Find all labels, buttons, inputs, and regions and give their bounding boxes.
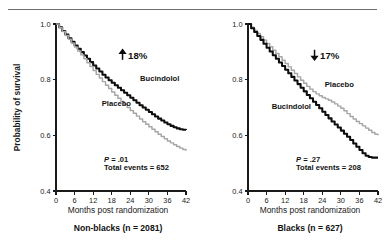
x-axis-title: Months post randomization bbox=[260, 205, 361, 215]
y-tick-label: 1.0 bbox=[232, 20, 242, 29]
x-tick-label: 42 bbox=[374, 196, 382, 205]
curve-placebo bbox=[248, 24, 378, 135]
x-tick-label: 18 bbox=[108, 196, 116, 205]
series-label-bucindolol: Bucindolol bbox=[140, 74, 179, 83]
y-tick-label: 0.6 bbox=[232, 131, 242, 140]
x-tick-label: 36 bbox=[163, 196, 171, 205]
effect-annotation: 17% bbox=[312, 50, 340, 62]
chart-panel-non-blacks: 0.40.60.81.006121824303642Months post ra… bbox=[0, 0, 192, 247]
x-tick-label: 24 bbox=[318, 196, 326, 205]
chart-panel-blacks: 0.40.60.81.006121824303642Months post ra… bbox=[192, 0, 384, 247]
x-tick-label: 42 bbox=[182, 196, 190, 205]
x-tick-label: 0 bbox=[246, 196, 250, 205]
panel-title: Blacks (n = 627) bbox=[277, 223, 342, 233]
figure-root: 0.40.60.81.006121824303642Months post ra… bbox=[0, 0, 385, 247]
effect-annotation: 18% bbox=[120, 50, 148, 62]
x-tick-label: 18 bbox=[300, 196, 308, 205]
x-tick-label: 0 bbox=[54, 196, 58, 205]
x-tick-label: 30 bbox=[337, 196, 345, 205]
y-axis-title: Probability of survival bbox=[12, 64, 22, 152]
series-label-placebo: Placebo bbox=[325, 80, 354, 89]
series-label-bucindolol: Bucindolol bbox=[272, 102, 311, 111]
total-events-label: Total events = 652 bbox=[104, 163, 169, 172]
y-tick-label: 0.6 bbox=[40, 131, 50, 140]
series-label-placebo: Placebo bbox=[102, 99, 131, 108]
y-tick-label: 1.0 bbox=[40, 20, 50, 29]
x-tick-label: 12 bbox=[281, 196, 289, 205]
y-tick-label: 0.8 bbox=[40, 75, 50, 84]
x-axis-title: Months post randomization bbox=[68, 205, 169, 215]
x-tick-label: 36 bbox=[355, 196, 363, 205]
x-tick-label: 6 bbox=[73, 196, 77, 205]
y-tick-label: 0.4 bbox=[40, 187, 50, 196]
y-tick-label: 0.4 bbox=[232, 187, 242, 196]
effect-percent-label: 18% bbox=[128, 50, 148, 61]
total-events-label: Total events = 208 bbox=[296, 163, 361, 172]
x-tick-label: 24 bbox=[126, 196, 134, 205]
effect-percent-label: 17% bbox=[320, 50, 340, 61]
y-tick-label: 0.8 bbox=[232, 75, 242, 84]
effect-arrow-head-down-icon bbox=[312, 56, 317, 59]
x-tick-label: 6 bbox=[265, 196, 269, 205]
chart-svg-0: 0.40.60.81.006121824303642Months post ra… bbox=[0, 0, 192, 247]
panel-title: Non-blacks (n = 2081) bbox=[74, 223, 163, 233]
x-tick-label: 30 bbox=[145, 196, 153, 205]
x-tick-label: 12 bbox=[89, 196, 97, 205]
chart-svg-1: 0.40.60.81.006121824303642Months post ra… bbox=[192, 0, 384, 247]
effect-arrow-head-up-icon bbox=[120, 50, 125, 53]
